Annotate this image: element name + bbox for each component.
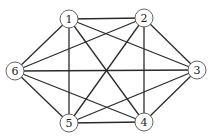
edge-1-6 xyxy=(15,19,69,71)
edges-layer xyxy=(15,18,197,123)
node-1: 1 xyxy=(60,10,78,28)
edge-4-5 xyxy=(69,122,144,123)
edge-1-2 xyxy=(69,18,144,19)
graph-diagram: 123456 xyxy=(0,0,213,139)
node-label: 3 xyxy=(194,64,201,77)
node-label: 2 xyxy=(141,12,148,25)
edge-5-6 xyxy=(15,71,69,123)
edge-2-3 xyxy=(144,18,197,70)
edge-3-4 xyxy=(144,70,197,122)
node-4: 4 xyxy=(135,113,153,131)
node-label: 6 xyxy=(12,65,19,78)
graph-canvas: 123456 xyxy=(0,0,213,139)
node-3: 3 xyxy=(188,61,206,79)
edge-3-6 xyxy=(15,70,197,71)
node-label: 1 xyxy=(66,13,73,26)
node-6: 6 xyxy=(6,62,24,80)
node-2: 2 xyxy=(135,9,153,27)
node-label: 5 xyxy=(66,117,73,130)
node-5: 5 xyxy=(60,114,78,132)
node-label: 4 xyxy=(141,116,148,129)
